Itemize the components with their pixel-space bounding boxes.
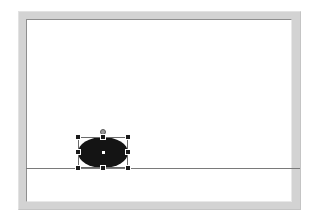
drawing-canvas[interactable] <box>0 0 311 220</box>
horizontal-line[interactable] <box>26 168 300 169</box>
resize-handle-middle-right[interactable] <box>125 149 131 155</box>
resize-handle-top-center[interactable] <box>100 134 106 140</box>
resize-handle-bottom-center[interactable] <box>100 165 106 171</box>
resize-handle-middle-left[interactable] <box>75 149 81 155</box>
resize-handle-bottom-left[interactable] <box>75 165 81 171</box>
drawing-page[interactable] <box>26 19 292 202</box>
selected-ellipse-group[interactable] <box>78 137 128 168</box>
resize-handle-top-right[interactable] <box>125 134 131 140</box>
resize-handle-bottom-right[interactable] <box>125 165 131 171</box>
resize-handle-top-left[interactable] <box>75 134 81 140</box>
center-marker <box>102 151 105 154</box>
